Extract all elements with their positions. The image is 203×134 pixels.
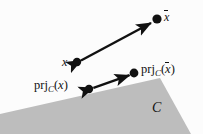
x-bar-glyph: x (164, 11, 169, 23)
label-proj-x: prjC(x) (34, 79, 68, 94)
proj-x-bar-argument: x (165, 62, 171, 76)
overbar-icon (164, 10, 168, 11)
label-set-c: C (152, 101, 161, 115)
proj-x-bar-close-paren: ) (171, 62, 175, 76)
arrow-x-to-x-bar (81, 23, 151, 61)
label-proj-x-bar: prjC(x) (141, 63, 175, 78)
proj-x-close-paren: ) (64, 78, 68, 92)
point-proj-x-bar (130, 69, 139, 78)
label-x-bar: x (164, 11, 169, 23)
projection-diagram-canvas: x-bar --> prj_C(x-bar) --> x x prjC(x) p… (0, 0, 203, 134)
overbar-icon (165, 62, 169, 63)
proj-x-bar-head: prj (141, 62, 155, 76)
point-proj-x (85, 85, 93, 93)
arrow-proj-x-to-proj-x-bar (94, 75, 130, 88)
point-x-bar (152, 14, 161, 23)
proj-x-head: prj (34, 78, 48, 92)
proj-x-bar-argument-glyph: x (165, 63, 171, 76)
x-bar-base: x (164, 10, 169, 24)
point-x (73, 58, 81, 66)
label-x: x (62, 56, 67, 68)
